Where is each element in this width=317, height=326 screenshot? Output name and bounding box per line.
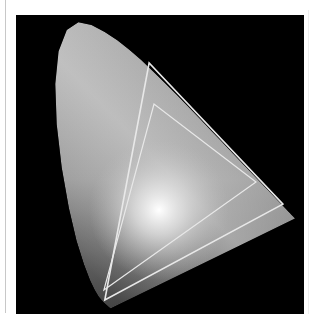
- chromaticity-svg: [16, 15, 304, 314]
- spectral-locus-fill-group: [16, 15, 304, 314]
- chromaticity-plot: [16, 15, 304, 314]
- right-border-rule: [308, 10, 309, 314]
- white-point-glow: [89, 140, 229, 280]
- left-border-rule: [5, 0, 6, 313]
